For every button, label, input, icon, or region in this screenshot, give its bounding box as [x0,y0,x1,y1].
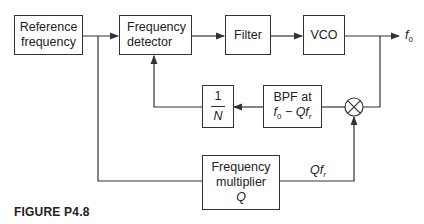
multiplier-label-line1: Frequency [211,160,270,175]
reference-label-line2: frequency [21,35,76,50]
bpf-block: BPF at f0 − Qfr [263,85,322,128]
fraction-numerator: 1 [215,89,222,104]
multiplier-label-line2: multiplier [216,175,266,190]
vco-block: VCO [303,15,345,55]
detector-label-line1: Frequency [127,20,186,35]
multiplier-label-line3: Q [236,190,246,205]
detector-label-line2: detector [127,35,172,50]
filter-block: Filter [225,15,271,55]
bpf-label-line2: f0 − Qfr [273,105,311,124]
vco-label: VCO [310,28,337,43]
frequency-multiplier-block: Frequency multiplier Q [202,155,280,210]
reference-label-line1: Reference [20,20,78,35]
filter-label: Filter [234,28,262,43]
divide-by-n-block: 1 N [202,85,234,128]
fraction: 1 N [211,89,225,124]
multiplied-frequency-label: Qfr [310,163,326,179]
reference-frequency-block: Reference frequency [14,15,83,55]
output-frequency-label: f0 [405,28,413,44]
fraction-bar [211,106,225,107]
fraction-denominator: N [213,109,222,124]
figure-caption: FIGURE P4.8 [14,205,90,219]
frequency-detector-block: Frequency detector [119,15,192,55]
bpf-label-line1: BPF at [273,90,311,105]
